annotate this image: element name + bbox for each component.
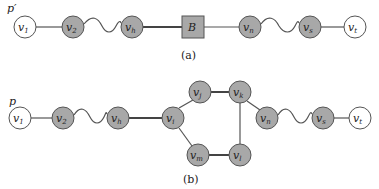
path-label-p: p (9, 95, 16, 108)
node-b-vi: vi (162, 107, 184, 129)
node-a-v1: v1 (14, 16, 36, 38)
diagram-a: p′ v1 v2 vh B vn vs vt (a) (7, 2, 366, 62)
node-a-v2: v2 (62, 16, 84, 38)
node-a-vs: vs (299, 16, 321, 38)
edge-a-vn-vs-wavy (261, 18, 299, 32)
node-b-vh: vh (107, 107, 129, 129)
edge-a-v2-vh-wavy (84, 18, 121, 32)
node-b-vt: vt (349, 107, 371, 129)
path-diagrams: p′ v1 v2 vh B vn vs vt (a) (0, 0, 379, 189)
svg-text:B: B (187, 21, 196, 34)
node-b-v1: v1 (9, 107, 31, 129)
caption-b: (b) (183, 173, 199, 186)
edge-b-vi-vj (179, 100, 193, 108)
node-b-vm: vm (187, 144, 209, 166)
node-b-vl: vl (229, 144, 251, 166)
node-b-vj: vj (189, 81, 211, 103)
node-a-B-square: B (182, 16, 204, 38)
diagram-b: p v1 v2 vh vi vj vk vm (9, 81, 371, 186)
node-a-vt: vt (344, 16, 366, 38)
node-a-vh: vh (121, 16, 143, 38)
edge-b-vn-vs-wavy (278, 109, 312, 123)
caption-a: (a) (181, 49, 196, 62)
node-b-vk: vk (229, 81, 251, 103)
path-label-p-prime: p′ (7, 2, 17, 15)
edge-b-v2-vh-wavy (74, 109, 107, 123)
node-b-vs: vs (312, 107, 334, 129)
node-b-v2: v2 (52, 107, 74, 129)
node-b-vn: vn (256, 107, 278, 129)
edge-b-vk-vn (247, 101, 260, 110)
node-a-vn: vn (239, 16, 261, 38)
edge-b-vi-vm (179, 128, 192, 146)
